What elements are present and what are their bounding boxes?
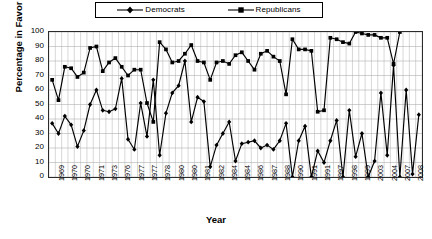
- x-axis-tick-label: 1970: [84, 151, 91, 181]
- legend-item-democrats: Democrats: [117, 5, 185, 15]
- x-axis-tick-label: 1980: [178, 151, 185, 181]
- x-axis-tick-label: 1982: [218, 151, 225, 181]
- y-axis-tick-70: 70: [18, 71, 44, 79]
- x-axis-tick-label: 2004: [391, 151, 398, 181]
- legend-label-republicans: Republicans: [256, 6, 301, 14]
- x-axis-tick-label: 1999: [364, 151, 371, 181]
- y-axis-tick-40: 40: [18, 114, 44, 122]
- square-marker-icon: [228, 5, 254, 15]
- figure-caption: [10, 232, 422, 239]
- x-axis-tick-label: 2007: [404, 151, 411, 181]
- x-axis-tick-label: 1973: [111, 151, 118, 181]
- x-axis-tick-label: 1969: [58, 151, 65, 181]
- y-axis-tick-10: 10: [18, 158, 44, 166]
- x-axis-tick-label: 1987: [271, 151, 278, 181]
- x-axis-tick-label: 1988: [284, 151, 291, 181]
- x-axis-tick-label: 1991: [324, 151, 331, 181]
- x-axis-tick-label: 1990: [297, 151, 304, 181]
- legend-label-democrats: Democrats: [145, 6, 185, 14]
- x-axis-tick-label: 1970: [71, 151, 78, 181]
- diamond-marker-icon: [117, 5, 143, 15]
- y-axis-tick-90: 90: [18, 42, 44, 50]
- x-axis-tick-label: 2003: [377, 151, 384, 181]
- y-axis-tick-80: 80: [18, 56, 44, 64]
- x-axis-title: Year: [0, 214, 432, 225]
- x-axis-tick-label: 1997: [337, 151, 344, 181]
- x-axis-tick-label: 1981: [204, 151, 211, 181]
- x-axis-tick-label: 1991: [311, 151, 318, 181]
- y-axis-tick-50: 50: [18, 100, 44, 108]
- x-axis-tick-label: 1984: [231, 151, 238, 181]
- x-axis-tick-label: 1984: [244, 151, 251, 181]
- chart-figure: Democrats Republicans Percentage in Favo…: [0, 0, 432, 239]
- x-axis-tick-label: 1978: [164, 151, 171, 181]
- x-axis-tick-label: 1998: [351, 151, 358, 181]
- x-axis-tick-label: 1976: [124, 151, 131, 181]
- x-axis-tick-label: 2008: [417, 151, 424, 181]
- x-axis-tick-label: 1980: [191, 151, 198, 181]
- x-axis-tick-label: 1977: [151, 151, 158, 181]
- chart-legend: Democrats Republicans: [95, 2, 323, 18]
- y-axis-tick-20: 20: [18, 143, 44, 151]
- y-axis-tick-30: 30: [18, 129, 44, 137]
- legend-item-republicans: Republicans: [228, 5, 301, 15]
- x-axis-tick-label: 1977: [138, 151, 145, 181]
- x-axis-tick-label: 1971: [98, 151, 105, 181]
- y-axis-tick-60: 60: [18, 85, 44, 93]
- x-axis-tick-label: 1986: [257, 151, 264, 181]
- y-axis-tick-100: 100: [18, 27, 44, 35]
- y-axis-tick-0: 0: [18, 172, 44, 180]
